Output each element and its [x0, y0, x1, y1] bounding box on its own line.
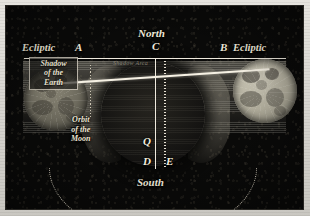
label-point-a: A [75, 42, 82, 54]
label-ecliptic-left: Ecliptic [22, 42, 55, 53]
label-ecliptic-right: Ecliptic [233, 42, 266, 53]
label-point-b: B [220, 42, 227, 54]
label-north: North [138, 28, 165, 40]
engraving-image: Shadow Area North C Ecliptic A B Eclipti… [5, 5, 304, 210]
label-south: South [137, 177, 164, 189]
orbit-callout-line-1: Orbit [71, 115, 91, 125]
label-point-q: Q [143, 136, 151, 148]
orbit-callout-line-2: of the [71, 125, 91, 135]
orbit-of-the-moon-callout: Orbit of the Moon [71, 115, 91, 144]
shadow-callout-line-2: of the [32, 68, 75, 77]
shadow-callout-line-3: Earth [32, 78, 75, 87]
label-point-c: C [152, 41, 159, 53]
lettering-layer: Shadow Area North C Ecliptic A B Eclipti… [5, 5, 304, 210]
shadow-band-caption: Shadow Area [113, 60, 148, 66]
engraving-mount: Shadow Area North C Ecliptic A B Eclipti… [0, 0, 310, 216]
label-point-d: D [143, 156, 151, 168]
shadow-of-the-earth-callout: Shadow of the Earth [29, 57, 78, 90]
label-point-e: E [166, 156, 173, 168]
orbit-callout-line-3: Moon [71, 134, 91, 144]
